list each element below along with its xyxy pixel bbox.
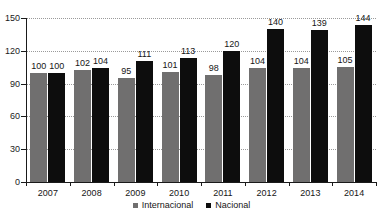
x-tick-2008	[114, 182, 115, 186]
bar-nacional-2008[interactable]	[92, 68, 109, 182]
y-tick-30	[21, 149, 27, 150]
x-tick-2012	[289, 182, 290, 186]
bar-chart: 0306090120150 20072008200920102011201220…	[0, 0, 383, 216]
x-tick-2014	[376, 182, 377, 186]
bar-nacional-2007[interactable]	[48, 73, 65, 182]
data-label-nacional-2013: 139	[307, 19, 332, 28]
x-axis-label-2012: 2012	[247, 188, 287, 198]
chart-legend: InternacionalNacional	[0, 200, 383, 210]
bar-internacional-2011[interactable]	[205, 75, 222, 182]
x-tick-2013	[332, 182, 333, 186]
bar-internacional-2009[interactable]	[118, 78, 135, 182]
legend-label: Nacional	[215, 200, 250, 210]
x-axis-label-2009: 2009	[115, 188, 155, 198]
x-tick-2009	[157, 182, 158, 186]
data-label-nacional-2010: 113	[176, 47, 201, 56]
data-label-nacional-2007: 100	[44, 62, 69, 71]
bar-internacional-2014[interactable]	[337, 67, 354, 182]
x-tick-2007	[70, 182, 71, 186]
data-label-internacional-2010: 101	[158, 61, 183, 70]
bar-internacional-2007[interactable]	[30, 73, 47, 182]
data-label-internacional-2012: 104	[245, 57, 270, 66]
y-axis-label-120: 120	[0, 47, 20, 56]
data-label-internacional-2013: 104	[289, 57, 314, 66]
data-label-internacional-2009: 95	[114, 67, 139, 76]
bar-nacional-2010[interactable]	[180, 58, 197, 182]
data-label-nacional-2012: 140	[263, 18, 288, 27]
bar-nacional-2013[interactable]	[311, 30, 328, 182]
x-tick-origin	[26, 182, 27, 186]
legend-item-nacional[interactable]: Nacional	[206, 200, 250, 210]
bar-internacional-2012[interactable]	[249, 68, 266, 182]
y-tick-150	[21, 18, 27, 19]
y-tick-60	[21, 116, 27, 117]
x-tick-2010	[201, 182, 202, 186]
data-label-nacional-2008: 104	[88, 57, 113, 66]
chart-title	[0, 0, 383, 1]
y-axis-label-30: 30	[0, 145, 20, 154]
data-label-internacional-2011: 98	[201, 64, 226, 73]
data-label-nacional-2014: 144	[351, 14, 376, 23]
data-label-nacional-2011: 120	[219, 40, 244, 49]
y-tick-90	[21, 84, 27, 85]
x-axis-label-2011: 2011	[203, 188, 243, 198]
x-axis-label-2013: 2013	[290, 188, 330, 198]
x-tick-2011	[245, 182, 246, 186]
bar-nacional-2012[interactable]	[267, 29, 284, 182]
data-label-internacional-2014: 105	[333, 56, 358, 65]
legend-swatch-icon-nacional	[206, 203, 211, 208]
y-axis-label-0: 0	[0, 178, 20, 187]
y-tick-120	[21, 51, 27, 52]
bar-internacional-2013[interactable]	[293, 68, 310, 182]
bar-nacional-2014[interactable]	[355, 25, 372, 182]
x-axis-label-2010: 2010	[159, 188, 199, 198]
x-axis-label-2014: 2014	[334, 188, 374, 198]
legend-label: Internacional	[142, 200, 194, 210]
bar-nacional-2009[interactable]	[136, 61, 153, 182]
y-axis-label-90: 90	[0, 80, 20, 89]
bar-internacional-2008[interactable]	[74, 70, 91, 182]
x-axis-label-2008: 2008	[72, 188, 112, 198]
legend-swatch-icon-internacional	[133, 203, 138, 208]
y-axis-label-60: 60	[0, 112, 20, 121]
plot-area	[26, 18, 376, 182]
x-axis-label-2007: 2007	[28, 188, 68, 198]
bar-internacional-2010[interactable]	[162, 72, 179, 182]
y-axis-label-150: 150	[0, 14, 20, 23]
legend-item-internacional[interactable]: Internacional	[133, 200, 194, 210]
data-label-nacional-2009: 111	[132, 50, 157, 59]
